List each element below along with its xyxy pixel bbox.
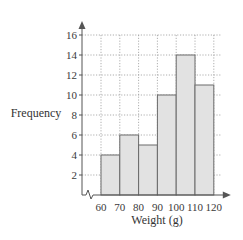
y-tick-label: 10: [66, 89, 78, 101]
x-tick-label: 90: [152, 201, 164, 213]
histogram-bar: [157, 95, 176, 195]
x-tick-label: 120: [206, 201, 223, 213]
histogram-chart: 24681012141660708090100110120FrequencyWe…: [0, 0, 243, 240]
y-tick-label: 6: [72, 129, 78, 141]
histogram-bar: [176, 55, 195, 195]
x-tick-label: 110: [187, 201, 204, 213]
x-axis-arrow-icon: [223, 192, 231, 199]
y-tick-label: 16: [66, 29, 78, 41]
y-axis-arrow-icon: [79, 21, 86, 29]
histogram-bar: [139, 145, 158, 195]
x-tick-label: 70: [114, 201, 126, 213]
y-axis-label: Frequency: [11, 106, 62, 120]
x-axis-label: Weight (g): [131, 213, 182, 227]
y-tick-label: 14: [66, 49, 78, 61]
histogram-bar: [120, 135, 139, 195]
y-tick-label: 12: [66, 69, 77, 81]
x-tick-label: 60: [96, 201, 108, 213]
y-tick-label: 2: [72, 169, 78, 181]
y-tick-label: 8: [72, 109, 78, 121]
x-tick-label: 100: [168, 201, 185, 213]
y-tick-label: 4: [72, 149, 78, 161]
x-tick-label: 80: [133, 201, 145, 213]
histogram-bar: [195, 85, 214, 195]
histogram-bar: [101, 155, 120, 195]
